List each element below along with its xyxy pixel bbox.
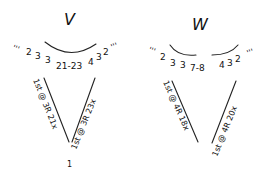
diagram-w-right-leg-label: 1st @ 4R 20x [211, 104, 240, 157]
diagram-v-center-count: 21-23 [56, 61, 82, 71]
diagram-v-right-num-3: 2 [103, 47, 109, 57]
diagram-w-left-num-3: 3 [180, 60, 186, 70]
diagram-w-arc-left [170, 45, 196, 55]
diagram-v-left-leg-label: 1st @ 3R 21x [31, 77, 60, 130]
diagram-w-title: W [192, 15, 209, 34]
diagram-v-arc [45, 42, 96, 53]
diagram-v-bottom-mark: 1 [67, 160, 72, 169]
diagram-w-right-num-3: 2 [235, 54, 241, 64]
diagram-v-left-num-3: 3 [45, 55, 51, 65]
diagram-v-right-num-2: 3 [96, 52, 102, 62]
diagram-v-right-ticks: ''' [110, 41, 119, 52]
diagram-v-right-leg-label: 1st @ 3R 23x [70, 97, 99, 150]
diagram-w-right-num-1: 4 [219, 60, 225, 70]
hand-drawn-diagram: V ''' 2 3 3 21-23 4 3 2 ''' 1st @ 3R 21x… [0, 0, 278, 176]
diagram-v-right-num-1: 4 [88, 57, 94, 67]
diagram-v: V ''' 2 3 3 21-23 4 3 2 ''' 1st @ 3R 21x… [11, 10, 119, 169]
diagram-v-left-num-1: 2 [26, 47, 32, 57]
diagram-w-left-leg-label: 1st @ 4R 18x [161, 79, 191, 132]
diagram-v-left-ticks: ''' [11, 43, 20, 54]
diagram-v-title: V [64, 10, 76, 29]
diagram-w-right-ticks: ''' [246, 47, 255, 58]
diagram-w-left-ticks: ''' [147, 45, 156, 56]
diagram-w-left-num-2: 3 [170, 58, 176, 68]
diagram-w-center-count: 7-8 [190, 63, 205, 73]
diagram-v-left-num-2: 3 [35, 51, 41, 61]
diagram-w: W ''' 2 3 3 7-8 4 3 2 ''' 1st @ 4R 18x 1… [147, 15, 255, 158]
diagram-w-right-num-2: 3 [227, 58, 233, 68]
diagram-w-left-num-1: 2 [160, 52, 166, 62]
